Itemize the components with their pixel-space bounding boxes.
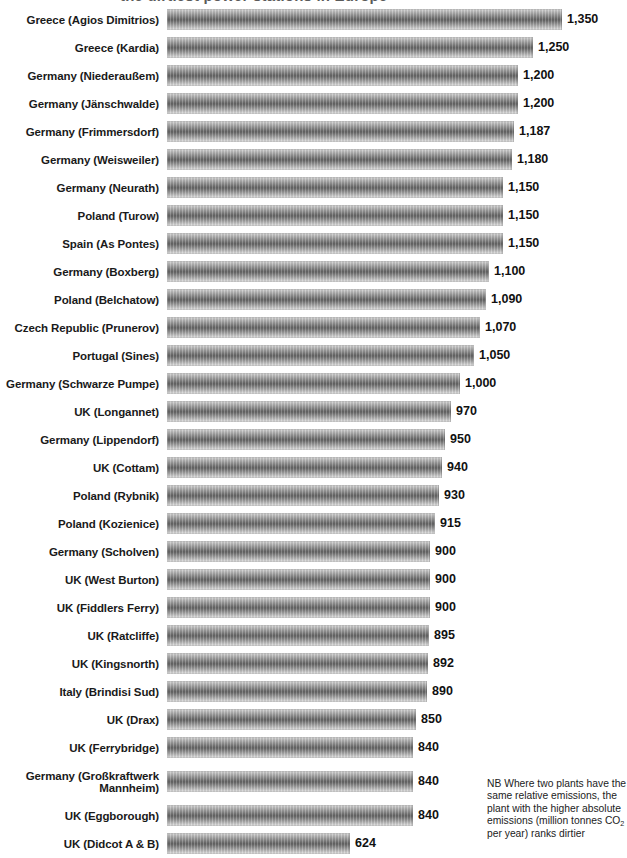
bar-track: 890	[167, 678, 627, 706]
bar-track: 915	[167, 510, 627, 538]
bar-row: Czech Republic (Prunerov)1,070	[0, 314, 627, 342]
bar	[167, 401, 451, 422]
bar-track: 1,000	[167, 370, 627, 398]
bar-value-label: 890	[427, 681, 453, 702]
bar	[167, 233, 503, 254]
bar-row: UK (West Burton)900	[0, 566, 627, 594]
bar-row: Germany (Schwarze Pumpe)1,000	[0, 370, 627, 398]
bar	[167, 709, 416, 730]
bar-row: UK (Longannet)970	[0, 398, 627, 426]
bar-row: Germany (Lippendorf)950	[0, 426, 627, 454]
bar-value-label: 1,150	[503, 177, 539, 198]
bar	[167, 121, 514, 142]
bar-track: 930	[167, 482, 627, 510]
bar-track: 950	[167, 426, 627, 454]
bar-category-label: UK (West Burton)	[0, 566, 163, 594]
bar-track: 1,090	[167, 286, 627, 314]
bar-track: 1,150	[167, 202, 627, 230]
bar-category-label: Portugal (Sines)	[0, 342, 163, 370]
bar-value-label: 900	[430, 569, 456, 590]
bar	[167, 317, 480, 338]
bar-track: 1,187	[167, 118, 627, 146]
bar	[167, 65, 518, 86]
bar-category-label: Germany (Scholven)	[0, 538, 163, 566]
bar	[167, 513, 435, 534]
bar-track: 1,100	[167, 258, 627, 286]
bar-value-label: 1,200	[518, 65, 554, 86]
bar	[167, 541, 430, 562]
footnote-note: NB Where two plants have the same relati…	[487, 778, 627, 840]
bar	[167, 261, 489, 282]
bar-row: Germany (Weisweiler)1,180	[0, 146, 627, 174]
bar	[167, 37, 533, 58]
bar-track: 900	[167, 538, 627, 566]
bar-track: 940	[167, 454, 627, 482]
bar-track: 840	[167, 734, 627, 762]
bar-value-label: 1,350	[562, 9, 598, 30]
bar-chart: Greece (Agios Dimitrios)1,350Greece (Kar…	[0, 6, 627, 846]
bar-category-label: UK (Drax)	[0, 706, 163, 734]
bar	[167, 149, 512, 170]
bar-track: 1,250	[167, 34, 627, 62]
bar-value-label: 892	[428, 653, 454, 674]
bar-category-label: Greece (Kardia)	[0, 34, 163, 62]
bar-track: 1,200	[167, 62, 627, 90]
bar-value-label: 1,180	[512, 149, 548, 170]
bar-category-label: Germany (Neurath)	[0, 174, 163, 202]
bar-category-label: UK (Cottam)	[0, 454, 163, 482]
bar-category-label: UK (Kingsnorth)	[0, 650, 163, 678]
bar	[167, 429, 445, 450]
bar	[167, 205, 503, 226]
bar-track: 1,150	[167, 230, 627, 258]
chart-title: the dirtiest power stations in Europe	[120, 0, 387, 4]
bar-row: UK (Kingsnorth)892	[0, 650, 627, 678]
bar-track: 850	[167, 706, 627, 734]
bar-value-label: 840	[413, 771, 439, 792]
bar-track: 1,200	[167, 90, 627, 118]
bar-track: 900	[167, 566, 627, 594]
bar-category-label: Czech Republic (Prunerov)	[0, 314, 163, 342]
bar-row: Germany (Jänschwalde)1,200	[0, 90, 627, 118]
bar-category-label: Germany (Boxberg)	[0, 258, 163, 286]
bar-category-label: UK (Eggborough)	[0, 802, 163, 830]
bar-category-label: Germany (Großkraftwerk Mannheim)	[0, 762, 163, 802]
bar-row: Germany (Neurath)1,150	[0, 174, 627, 202]
bar-row: Germany (Boxberg)1,100	[0, 258, 627, 286]
bar-value-label: 1,187	[514, 121, 550, 142]
bar-row: Poland (Turow)1,150	[0, 202, 627, 230]
bar-row: UK (Ratcliffe)895	[0, 622, 627, 650]
bar-category-label: UK (Longannet)	[0, 398, 163, 426]
bar-row: Portugal (Sines)1,050	[0, 342, 627, 370]
bar-value-label: 1,070	[480, 317, 516, 338]
bar-value-label: 1,150	[503, 205, 539, 226]
bar	[167, 625, 429, 646]
bar	[167, 653, 428, 674]
bar-category-label: Greece (Agios Dimitrios)	[0, 6, 163, 34]
bar-value-label: 1,200	[518, 93, 554, 114]
bar	[167, 737, 413, 758]
bar	[167, 93, 518, 114]
bar-category-label: UK (Ratcliffe)	[0, 622, 163, 650]
bar-track: 1,070	[167, 314, 627, 342]
bar-value-label: 1,100	[489, 261, 525, 282]
footnote-line-5: per year) ranks dirtier	[487, 828, 585, 839]
bar-row: Italy (Brindisi Sud)890	[0, 678, 627, 706]
bar-value-label: 624	[350, 833, 376, 854]
bar-row: UK (Drax)850	[0, 706, 627, 734]
bar-row: Greece (Kardia)1,250	[0, 34, 627, 62]
bar-category-label: Poland (Turow)	[0, 202, 163, 230]
footnote-line-4: emissions (million tonnes CO	[487, 815, 620, 826]
bar-category-label: Germany (Frimmersdorf)	[0, 118, 163, 146]
bar-value-label: 895	[429, 625, 455, 646]
bar-value-label: 1,250	[533, 37, 569, 58]
bar-category-label: Germany (Weisweiler)	[0, 146, 163, 174]
bar	[167, 485, 439, 506]
bar	[167, 597, 430, 618]
bar-track: 1,350	[167, 6, 627, 34]
bar-category-label: UK (Didcot A & B)	[0, 830, 163, 858]
bar	[167, 681, 427, 702]
bar	[167, 805, 413, 826]
bar-row: Greece (Agios Dimitrios)1,350	[0, 6, 627, 34]
footnote-line-1: NB Where two plants have the	[487, 778, 626, 789]
bar-row: UK (Fiddlers Ferry)900	[0, 594, 627, 622]
